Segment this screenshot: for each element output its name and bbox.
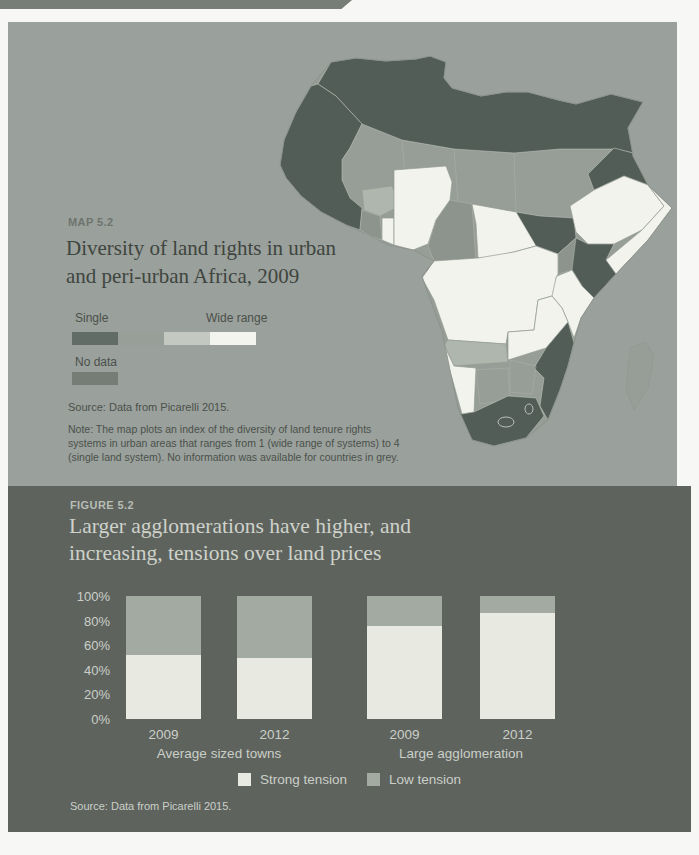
legend-swatch-1 [367,773,380,786]
figure-title-line1: Larger agglomerations have higher, and [69,513,411,540]
legend-item-1: Low tension [367,772,461,787]
legend-text-0: Strong tension [260,772,347,787]
segment-strong-tension [480,613,555,719]
legend-single-label: Single [75,311,108,325]
bar-2-2009 [367,596,442,719]
y-axis-tick-40%: 40% [66,662,110,677]
legend-scale-swatch-2 [118,332,164,345]
x-axis-label-3: 2012 [502,727,532,742]
map-note-line3: (single land system). No information was… [68,450,399,464]
y-axis-tick-80%: 80% [66,613,110,628]
segment-strong-tension [367,626,442,719]
bar-0-2009 [126,596,201,719]
legend-item-0: Strong tension [238,772,347,787]
y-axis-tick-100%: 100% [66,589,110,604]
legend-no-data-label: No data [75,355,117,369]
legend-swatch-0 [238,773,251,786]
figure-panel: FIGURE 5.2 Larger agglomerations have hi… [8,486,691,832]
map-title-line1: Diversity of land rights in urban [66,234,336,262]
group-label-0: Average sized towns [157,746,281,761]
figure-title: Larger agglomerations have higher, and i… [69,513,411,567]
x-axis-label-2: 2009 [389,727,419,742]
legend-text-1: Low tension [389,772,461,787]
country-lesotho [498,417,514,427]
map-note: Note: The map plots an index of the dive… [68,422,399,464]
figure-source: Source: Data from Picarelli 2015. [70,800,231,812]
bar-1-2012 [237,596,312,719]
map-source: Source: Data from Picarelli 2015. [68,401,229,413]
map-kicker: MAP 5.2 [68,216,113,228]
segment-low-tension [480,596,555,613]
country-swaziland [525,404,533,414]
country-angola [444,340,508,366]
country-togo-benin [382,218,394,245]
y-axis-tick-60%: 60% [66,638,110,653]
map-panel: MAP 5.2 Diversity of land rights in urba… [8,22,677,486]
segment-low-tension [126,596,201,655]
segment-strong-tension [237,658,312,720]
y-axis-tick-20%: 20% [66,687,110,702]
legend-scale-swatch-1 [72,332,118,345]
map-title: Diversity of land rights in urban and pe… [66,234,336,290]
segment-low-tension [237,596,312,658]
country-madagascar [626,342,654,410]
y-axis-tick-0%: 0% [66,712,110,727]
page-edge-strip [0,0,352,9]
map-note-line2: systems in urban areas that ranges from … [68,436,399,450]
scanned-report-page: MAP 5.2 Diversity of land rights in urba… [0,0,699,855]
legend-scale-swatch-4 [210,332,256,345]
x-axis-label-1: 2012 [259,727,289,742]
legend-no-data-swatch [72,372,118,385]
legend-scale-swatch-3 [164,332,210,345]
chart-legend: Strong tensionLow tension [8,772,691,787]
figure-kicker: FIGURE 5.2 [70,499,134,511]
x-axis-label-0: 2009 [148,727,178,742]
segment-strong-tension [126,655,201,719]
segment-low-tension [367,596,442,626]
map-title-line2: and peri-urban Africa, 2009 [66,262,336,290]
figure-title-line2: increasing, tensions over land prices [69,540,411,567]
legend-wide-range-label: Wide range [206,311,267,325]
bar-3-2012 [480,596,555,719]
legend-color-scale [72,332,256,345]
group-label-1: Large agglomeration [399,746,523,761]
map-note-line1: Note: The map plots an index of the dive… [68,422,399,436]
